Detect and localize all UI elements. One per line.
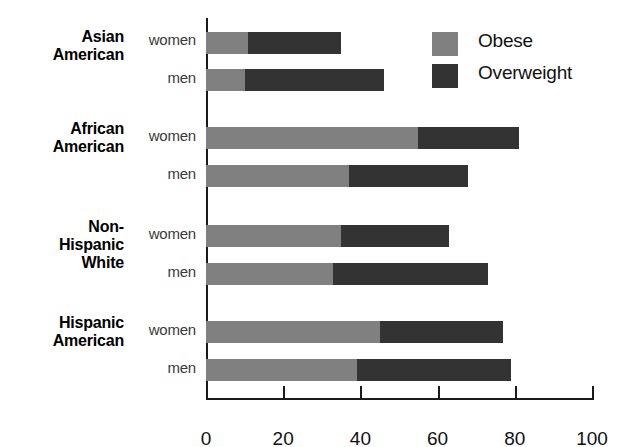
group-label-line: Asian <box>53 28 124 46</box>
group-label-line: Hispanic <box>59 236 124 254</box>
series-label-women: women <box>149 31 196 48</box>
bar-segment-overweight <box>333 263 487 285</box>
group-label-1: AfricanAmerican <box>53 120 124 156</box>
bar-segment-overweight <box>357 359 511 381</box>
group-label-line: American <box>53 46 124 64</box>
bar-segment-overweight <box>418 127 518 149</box>
x-tick-0 <box>206 386 208 400</box>
series-label-men: men <box>167 69 196 86</box>
group-label-2: Non-HispanicWhite <box>59 218 124 272</box>
group-label-line: White <box>59 254 124 272</box>
legend-swatch-obese <box>432 32 458 56</box>
x-tick-40 <box>360 386 362 400</box>
x-tick-label-80: 80 <box>504 428 525 447</box>
bar-segment-obese <box>206 32 248 54</box>
x-tick-100 <box>592 386 594 400</box>
series-label-men: men <box>167 165 196 182</box>
group-label-line: African <box>53 120 124 138</box>
x-axis-line <box>206 398 593 400</box>
bar-segment-obese <box>206 127 418 149</box>
x-tick-label-100: 100 <box>576 428 608 447</box>
bar-segment-overweight <box>349 165 469 187</box>
legend-swatch-overweight <box>432 64 458 88</box>
bar-segment-obese <box>206 263 333 285</box>
bar-segment-obese <box>206 165 349 187</box>
legend-label: Overweight <box>478 62 572 84</box>
series-label-women: women <box>149 127 196 144</box>
series-label-women: women <box>149 225 196 242</box>
bar-segment-overweight <box>248 32 341 54</box>
group-label-0: AsianAmerican <box>53 28 124 64</box>
bar-segment-overweight <box>245 69 384 91</box>
legend-label: Obese <box>478 30 533 52</box>
bar-segment-obese <box>206 359 357 381</box>
bar-segment-overweight <box>380 321 504 343</box>
series-label-women: women <box>149 321 196 338</box>
group-label-line: Non- <box>59 218 124 236</box>
bar-segment-obese <box>206 225 341 247</box>
x-tick-label-60: 60 <box>427 428 448 447</box>
bar-segment-obese <box>206 321 380 343</box>
bar-segment-obese <box>206 69 245 91</box>
x-tick-20 <box>283 386 285 400</box>
series-label-men: men <box>167 359 196 376</box>
group-label-line: Hispanic <box>53 314 124 332</box>
bar-segment-overweight <box>341 225 449 247</box>
series-label-men: men <box>167 263 196 280</box>
x-tick-label-20: 20 <box>273 428 294 447</box>
x-tick-80 <box>515 386 517 400</box>
bar-chart: AsianAmericanAfricanAmericanNon-Hispanic… <box>0 0 619 447</box>
group-label-3: HispanicAmerican <box>53 314 124 350</box>
x-tick-60 <box>438 386 440 400</box>
group-label-line: American <box>53 138 124 156</box>
x-tick-label-40: 40 <box>350 428 371 447</box>
group-label-line: American <box>53 332 124 350</box>
x-tick-label-0: 0 <box>201 428 212 447</box>
